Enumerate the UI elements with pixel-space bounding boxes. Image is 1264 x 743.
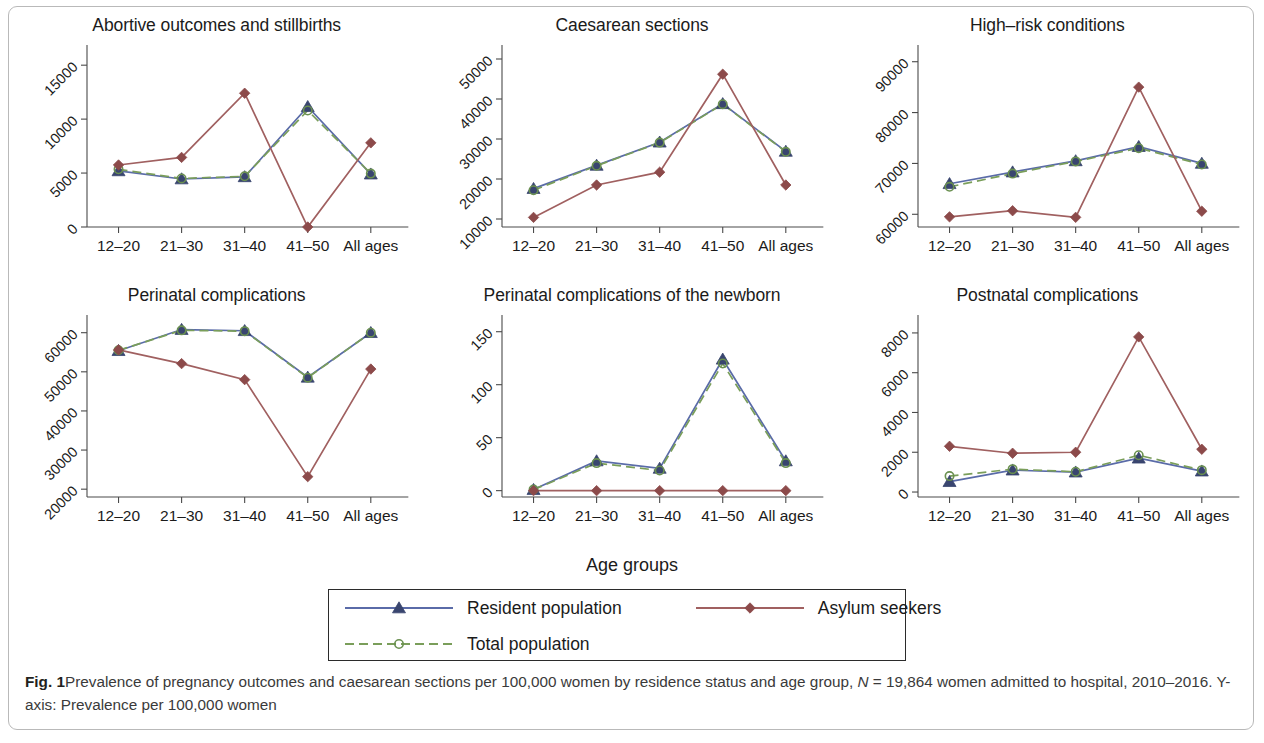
x-tick-label: 41–50 (702, 507, 745, 524)
data-point-asylum (655, 485, 665, 495)
y-tick-label: 70000 (872, 157, 912, 197)
y-tick-label: 4000 (877, 406, 911, 440)
x-tick-label: All ages (759, 237, 814, 254)
y-tick-label: 15000 (41, 59, 81, 99)
legend-swatch-resident (345, 597, 453, 619)
data-point-asylum (1007, 206, 1017, 216)
series-line-asylum (119, 350, 371, 477)
y-tick-label: 10000 (456, 213, 496, 253)
legend-item-total[interactable]: Total population (329, 633, 590, 655)
data-point-asylum (655, 167, 665, 177)
x-tick-label: 12–20 (97, 507, 140, 524)
x-tick-label: 41–50 (1117, 237, 1160, 254)
y-tick-label: 30000 (456, 133, 496, 173)
series-line-asylum (949, 337, 1201, 453)
panel-svg-postnatal: 0200040006000800012–2021–3031–4041–50All… (840, 279, 1255, 549)
chart-panel-perinatal: Perinatal complications20000300004000050… (9, 279, 424, 549)
x-tick-label: 21–30 (991, 507, 1034, 524)
panel-svg-abortive: 05000100001500012–2021–3031–4041–50All a… (9, 9, 424, 279)
x-tick-label: 12–20 (928, 507, 971, 524)
data-point-asylum (944, 441, 954, 451)
data-point-asylum (781, 180, 791, 190)
caption-text-1: Prevalence of pregnancy outcomes and cae… (65, 673, 858, 690)
x-tick-label: 12–20 (928, 237, 971, 254)
y-tick-label: 6000 (877, 366, 911, 400)
y-tick-label: 50000 (456, 53, 496, 93)
data-point-asylum (176, 358, 186, 368)
y-tick-label: 0 (894, 486, 911, 503)
x-tick-label: 21–30 (991, 237, 1034, 254)
panel-svg-highrisk: 6000070000800009000012–2021–3031–4041–50… (840, 9, 1255, 279)
legend-row-2: Total population (329, 626, 905, 662)
chart-panel-grid: Abortive outcomes and stillbirths0500010… (9, 9, 1255, 549)
plot-area: Abortive outcomes and stillbirths0500010… (9, 7, 1255, 603)
data-point-asylum (944, 212, 954, 222)
y-tick-label: 60000 (872, 208, 912, 248)
legend-item-asylum[interactable]: Asylum seekers (680, 597, 942, 619)
y-tick-label: 20000 (41, 483, 81, 523)
chart-panel-abortive: Abortive outcomes and stillbirths0500010… (9, 9, 424, 279)
data-point-asylum (366, 364, 376, 374)
chart-legend: Resident population Asylum seekers Total… (328, 589, 906, 661)
x-tick-label: 12–20 (512, 237, 555, 254)
x-tick-label: 31–40 (638, 507, 681, 524)
data-point-asylum (1070, 212, 1080, 222)
x-tick-label: 31–40 (223, 237, 266, 254)
series-line-total (119, 110, 371, 178)
data-point-asylum (1196, 444, 1206, 454)
y-tick-label: 0 (479, 484, 496, 501)
data-point-asylum (1133, 332, 1143, 342)
y-tick-label: 40000 (456, 93, 496, 133)
series-line-asylum (119, 93, 371, 227)
x-tick-label: All ages (343, 507, 398, 524)
y-tick-label: 8000 (877, 326, 911, 360)
chart-panel-perinatal-newborn: Perinatal complications of the newborn05… (424, 279, 839, 549)
data-point-asylum (1070, 447, 1080, 457)
x-tick-label: 31–40 (1054, 237, 1097, 254)
x-tick-label: All ages (759, 507, 814, 524)
data-point-asylum (592, 485, 602, 495)
y-tick-label: 5000 (47, 167, 81, 201)
x-tick-label: 12–20 (97, 237, 140, 254)
x-tick-label: 21–30 (160, 507, 203, 524)
data-point-asylum (1007, 448, 1017, 458)
data-point-asylum (718, 69, 728, 79)
data-point-asylum (529, 212, 539, 222)
x-tick-label: 31–40 (638, 237, 681, 254)
x-tick-label: 41–50 (286, 507, 329, 524)
legend-item-resident[interactable]: Resident population (329, 597, 622, 619)
series-line-resident (119, 330, 371, 378)
legend-row-1: Resident population Asylum seekers (329, 590, 905, 626)
figure-caption: Fig. 1Prevalence of pregnancy outcomes a… (25, 671, 1247, 716)
x-tick-label: 41–50 (1117, 507, 1160, 524)
x-tick-label: 31–40 (1054, 507, 1097, 524)
chart-panel-highrisk: High–risk conditions60000700008000090000… (840, 9, 1255, 279)
y-tick-label: 40000 (41, 404, 81, 444)
y-tick-label: 60000 (41, 326, 81, 366)
legend-swatch-total (345, 633, 453, 655)
x-tick-label: 41–50 (286, 237, 329, 254)
data-point-asylum (239, 374, 249, 384)
chart-panel-caesarean: Caesarean sections1000020000300004000050… (424, 9, 839, 279)
y-tick-label: 90000 (872, 55, 912, 95)
x-tick-label: 12–20 (512, 507, 555, 524)
data-point-asylum (303, 471, 313, 481)
series-line-resident (119, 107, 371, 179)
x-tick-label: 21–30 (575, 507, 618, 524)
data-point-asylum (1196, 206, 1206, 216)
y-tick-label: 2000 (877, 446, 911, 480)
figure-label: Fig. 1 (25, 673, 65, 690)
legend-label-resident: Resident population (467, 598, 622, 619)
x-tick-label: 21–30 (575, 237, 618, 254)
chart-panel-postnatal: Postnatal complications02000400060008000… (840, 279, 1255, 549)
panel-svg-perinatal-newborn: 05010015012–2021–3031–4041–50All ages (424, 279, 839, 549)
panel-svg-caesarean: 100002000030000400005000012–2021–3031–40… (424, 9, 839, 279)
caption-n-symbol: N (858, 673, 869, 690)
y-tick-label: 150 (468, 325, 496, 353)
y-tick-label: 80000 (872, 106, 912, 146)
x-tick-label: All ages (1174, 507, 1229, 524)
data-point-asylum (1133, 82, 1143, 92)
legend-label-total: Total population (467, 634, 590, 655)
y-tick-label: 0 (64, 221, 81, 238)
x-tick-label: All ages (1174, 237, 1229, 254)
